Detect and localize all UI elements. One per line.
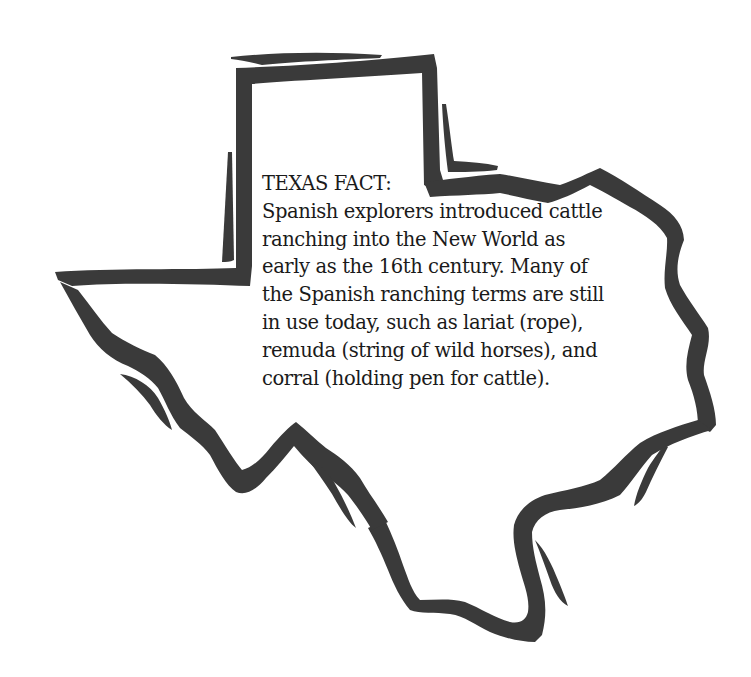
fact-line: early as the 16th century. Many of [262,253,662,281]
fact-line: Spanish explorers introduced cattle [262,198,662,226]
fact-line: the Spanish ranching terms are still [262,281,662,309]
fact-line: remuda (string of wild horses), and [262,337,662,365]
fact-line: corral (holding pen for cattle). [262,365,662,393]
fact-heading: TEXAS FACT: [262,170,662,198]
fact-line: ranching into the New World as [262,226,662,254]
texas-fact-text-block: TEXAS FACT: Spanish explorers introduced… [262,170,662,392]
fact-line: in use today, such as lariat (rope), [262,309,662,337]
texas-fact-illustration: TEXAS FACT: Spanish explorers introduced… [0,0,751,677]
